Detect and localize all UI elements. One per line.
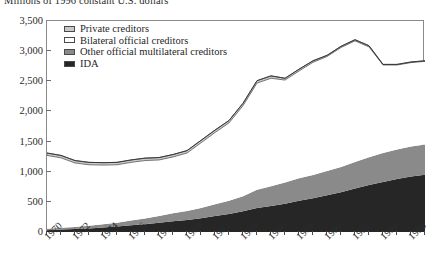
y-tick-mark bbox=[46, 141, 51, 142]
y-tick-label: 0 bbox=[1, 226, 43, 237]
legend-label: Private creditors bbox=[80, 23, 149, 35]
y-tick-mark bbox=[46, 201, 51, 202]
x-tick-mark bbox=[256, 231, 257, 235]
x-tick-mark bbox=[88, 231, 89, 235]
y-tick-label: 500 bbox=[1, 195, 43, 206]
y-tick-label: 1,500 bbox=[1, 135, 43, 146]
legend-label: IDA bbox=[80, 58, 99, 70]
x-tick-mark bbox=[144, 231, 145, 235]
x-tick-mark bbox=[200, 231, 201, 235]
x-tick-mark bbox=[116, 231, 117, 235]
legend-swatch-icon bbox=[64, 49, 75, 55]
x-tick-mark bbox=[368, 231, 369, 235]
x-tick-mark bbox=[396, 231, 397, 235]
chart-legend: Private creditorsBilateral official cred… bbox=[64, 23, 227, 69]
y-tick-mark bbox=[46, 50, 51, 51]
y-tick-mark bbox=[46, 171, 51, 172]
y-tick-label: 3,000 bbox=[1, 45, 43, 56]
legend-item: Bilateral official creditors bbox=[64, 35, 227, 47]
x-tick-mark bbox=[172, 231, 173, 235]
y-tick-mark bbox=[46, 110, 51, 111]
legend-item: Private creditors bbox=[64, 23, 227, 35]
y-tick-label: 3,500 bbox=[1, 15, 43, 26]
legend-swatch-icon bbox=[64, 37, 75, 43]
x-tick-mark bbox=[284, 231, 285, 235]
legend-swatch-icon bbox=[64, 61, 75, 67]
y-tick-mark bbox=[46, 80, 51, 81]
x-tick-mark bbox=[60, 231, 61, 235]
x-tick-mark bbox=[228, 231, 229, 235]
legend-item: IDA bbox=[64, 58, 227, 70]
y-tick-label: 2,500 bbox=[1, 75, 43, 86]
x-tick-mark bbox=[312, 231, 313, 235]
legend-label: Bilateral official creditors bbox=[80, 35, 188, 47]
chart-figure: Millions of 1996 constant U.S. dollars 0… bbox=[0, 0, 440, 267]
x-tick-mark bbox=[424, 231, 425, 235]
y-tick-label: 2,000 bbox=[1, 105, 43, 116]
legend-swatch-icon bbox=[64, 26, 75, 32]
legend-item: Other official multilateral creditors bbox=[64, 46, 227, 58]
y-axis: 05001,0001,5002,0002,5003,0003,500 bbox=[0, 0, 43, 267]
x-tick-mark bbox=[340, 231, 341, 235]
legend-label: Other official multilateral creditors bbox=[80, 46, 227, 58]
y-tick-label: 1,000 bbox=[1, 165, 43, 176]
